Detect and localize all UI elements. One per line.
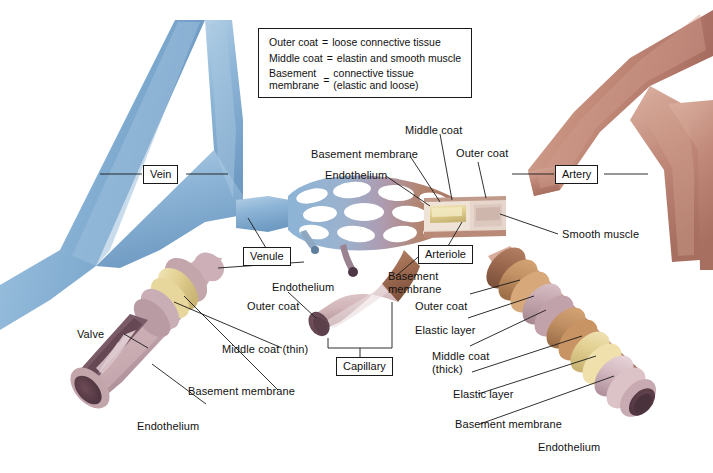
label-middle-coat-thick: Middle coat (thick) (432, 350, 489, 375)
label-smooth-muscle: Smooth muscle (562, 228, 639, 241)
legend-equals-1: = (323, 52, 337, 64)
label-outer-coat-left: Outer coat (247, 300, 299, 313)
label-basement-membrane-right: Basement membrane (455, 418, 562, 431)
label-middle-coat-top: Middle coat (405, 124, 462, 137)
label-endothelium-bottom-left: Endothelium (137, 420, 199, 433)
label-capillary: Capillary (336, 357, 393, 376)
label-venule: Venule (243, 247, 291, 266)
legend-term-basement-membrane: Basement membrane (269, 68, 319, 91)
label-valve: Valve (77, 328, 104, 341)
label-artery: Artery (555, 165, 598, 184)
label-endothelium-right: Endothelium (538, 441, 600, 454)
label-elastic-layer-upper: Elastic layer (415, 324, 476, 337)
legend-row-basement-membrane: Basement membrane = connective tissue (e… (269, 68, 471, 91)
label-basement-membrane-center: Basement membrane (388, 270, 441, 295)
legend-row-middle-coat: Middle coat = elastin and smooth muscle (269, 52, 471, 64)
label-vein: Vein (143, 165, 178, 184)
legend-term-outer-coat: Outer coat (269, 36, 318, 48)
label-middle-coat-thin: Middle coat (thin) (222, 343, 308, 356)
legend-row-outer-coat: Outer coat = loose connective tissue (269, 36, 471, 48)
legend-term-middle-coat: Middle coat (269, 52, 323, 64)
legend-definition-outer-coat: loose connective tissue (332, 36, 441, 48)
arteriole-cutaway (424, 196, 506, 238)
label-endothelium-top: Endothelium (325, 169, 387, 182)
legend-definition-middle-coat: elastin and smooth muscle (337, 52, 461, 64)
label-elastic-layer-lower: Elastic layer (453, 388, 514, 401)
figure-canvas: Outer coat = loose connective tissue Mid… (0, 0, 713, 473)
legend-definition-basement-membrane: connective tissue (elastic and loose) (333, 68, 418, 91)
definitions-legend-box: Outer coat = loose connective tissue Mid… (258, 28, 472, 98)
label-arteriole: Arteriole (418, 245, 473, 264)
label-endothelium-left: Endothelium (272, 281, 334, 294)
label-outer-coat-top: Outer coat (456, 147, 508, 160)
legend-equals-0: = (318, 36, 332, 48)
label-basement-membrane-top: Basement membrane (311, 148, 418, 161)
legend-equals-2: = (319, 74, 333, 86)
label-outer-coat-right: Outer coat (415, 300, 467, 313)
label-basement-membrane-left: Basement membrane (188, 385, 295, 398)
